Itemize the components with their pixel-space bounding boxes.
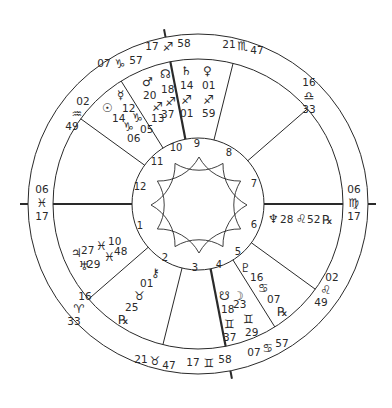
retrograde-icon: ℞ xyxy=(277,305,288,319)
zodiac-sign-icon: ♈ xyxy=(74,302,85,316)
cusp-degree: 06 xyxy=(347,183,361,195)
house-number-10: 10 xyxy=(170,142,183,153)
uranus-degree: 29 xyxy=(87,258,100,270)
cusp-minute: 49 xyxy=(65,120,78,132)
moon-minute: 29 xyxy=(245,326,258,338)
zodiac-sign-icon: ♍ xyxy=(349,196,360,210)
cusp-11-label: 07♑57 xyxy=(97,54,142,71)
cusp-5-label: 07♋57 xyxy=(247,337,288,358)
house-number-11: 11 xyxy=(151,156,164,167)
cusp-minute: 47 xyxy=(162,359,175,371)
cusp-degree: 02 xyxy=(325,271,338,283)
natal-chart-wheel: 123456789101112 07♑5717♐5821♏4716♎3306♍1… xyxy=(0,0,392,408)
axis-tick-house-4 xyxy=(230,371,232,379)
star-arcs xyxy=(151,157,247,253)
zodiac-sign-icon: ♑ xyxy=(115,57,126,71)
neptune-minute: 52 xyxy=(307,213,320,225)
sagittarius-icon: ♐ xyxy=(203,93,214,107)
cusp-10-label: 17♐58 xyxy=(145,37,190,54)
zodiac-sign-icon: ♐ xyxy=(163,40,174,54)
venus-degree: 01 xyxy=(202,79,215,91)
retrograde-icon: ℞ xyxy=(322,213,333,227)
planet-saturn: ♄ 14 ♐ 01 xyxy=(180,64,194,119)
node-icon: ☊ xyxy=(160,67,171,81)
node-minute: 37 xyxy=(223,331,236,343)
neptune-degree: 28 xyxy=(280,213,293,225)
venus-icon: ♀ xyxy=(203,64,212,78)
zodiac-sign-icon: ♎ xyxy=(304,89,315,103)
saturn-minute: 01 xyxy=(180,107,193,119)
house-number-6: 6 xyxy=(251,219,257,230)
house-number-3: 3 xyxy=(192,262,198,273)
cusp-minute: 17 xyxy=(347,210,360,222)
cusp-2-label: 16♈33 xyxy=(67,290,92,327)
mercury-minute: 05 xyxy=(140,123,153,135)
house-number-8: 8 xyxy=(226,147,232,158)
house-number-7: 7 xyxy=(251,178,257,189)
cusp-8-label: 16♎33 xyxy=(302,76,316,115)
zodiac-sign-icon: ♏ xyxy=(238,39,249,53)
house-number-12: 12 xyxy=(134,181,147,192)
cusp-minute: 58 xyxy=(177,37,190,49)
cusp-degree: 21 xyxy=(134,353,147,365)
zodiac-sign-icon: ♉ xyxy=(150,354,161,368)
zodiac-sign-icon: ♌ xyxy=(321,283,332,297)
node-icon: ☋ xyxy=(219,289,230,303)
cusp-minute: 57 xyxy=(275,337,288,349)
cusp-degree: 17 xyxy=(186,356,199,368)
leo-icon: ♌ xyxy=(296,212,307,226)
saturn-icon: ♄ xyxy=(181,64,192,78)
cusp-9-label: 21♏47 xyxy=(222,38,263,56)
cusp-degree: 21 xyxy=(222,38,235,50)
cusp-degree: 07 xyxy=(97,57,110,69)
cusp-degree: 17 xyxy=(145,40,158,52)
uranus-minute: 48 xyxy=(114,245,127,257)
cusp-degree: 06 xyxy=(35,183,49,195)
neptune-icon: ♆ xyxy=(268,212,279,226)
node-degree: 18 xyxy=(161,83,174,95)
cusp-minute: 33 xyxy=(302,103,315,115)
zodiac-sign-icon: ♓ xyxy=(37,196,48,210)
gemini-icon: ♊ xyxy=(224,317,235,331)
axis-tick-house-10 xyxy=(164,29,166,37)
pluto-minute: 07 xyxy=(267,293,280,305)
aspect-star-pattern xyxy=(151,157,247,253)
cusp-line-house-9 xyxy=(214,63,233,140)
chiron-minute: 25 xyxy=(125,301,138,313)
zodiac-sign-icon: ♊ xyxy=(204,356,215,370)
venus-minute: 59 xyxy=(202,107,215,119)
sun-minute: 06 xyxy=(127,132,141,144)
saturn-degree: 14 xyxy=(180,79,194,91)
house-number-4: 4 xyxy=(216,259,222,270)
house-number-2: 2 xyxy=(162,252,168,263)
house-number-1: 1 xyxy=(137,220,143,231)
cusp-minute: 58 xyxy=(218,353,231,365)
cusp-degree: 16 xyxy=(302,76,316,88)
cusp-12-label: 02♒49 xyxy=(65,95,89,132)
house-number-5: 5 xyxy=(235,246,241,257)
cusp-6-label: 02♌49 xyxy=(314,271,338,308)
cusp-line-house-8 xyxy=(248,109,308,161)
chiron-degree: 01 xyxy=(140,277,153,289)
planet-venus: ♀ 01 ♐ 59 xyxy=(202,64,215,119)
cusp-degree: 16 xyxy=(78,290,92,302)
cusp-line-house-3 xyxy=(163,268,182,345)
sagittarius-icon: ♐ xyxy=(181,93,192,107)
jupiter-degree: 27 xyxy=(81,244,94,256)
zodiac-sign-icon: ♒ xyxy=(72,107,83,121)
cusp-4-label: 17♊58 xyxy=(186,353,231,370)
cusp-degree: 02 xyxy=(76,95,89,107)
zodiac-sign-icon: ♋ xyxy=(263,341,274,355)
cusp-minute: 47 xyxy=(250,44,263,56)
cusp-minute: 17 xyxy=(35,210,48,222)
moon-degree: 23 xyxy=(233,298,246,310)
cusp-degree: 07 xyxy=(247,346,260,358)
node-minute: 37 xyxy=(161,108,174,120)
cusp-minute: 33 xyxy=(67,315,80,327)
cusp-1-label: 06♓17 xyxy=(35,183,49,222)
retrograde-icon: ℞ xyxy=(118,313,129,327)
cusp-minute: 57 xyxy=(129,54,142,66)
planet-neptune: ♆ 28 ♌ 52 ℞ xyxy=(268,212,333,227)
planet-moon: ☽ 23 ♊ 29 xyxy=(233,289,258,338)
house-number-9: 9 xyxy=(194,138,200,149)
